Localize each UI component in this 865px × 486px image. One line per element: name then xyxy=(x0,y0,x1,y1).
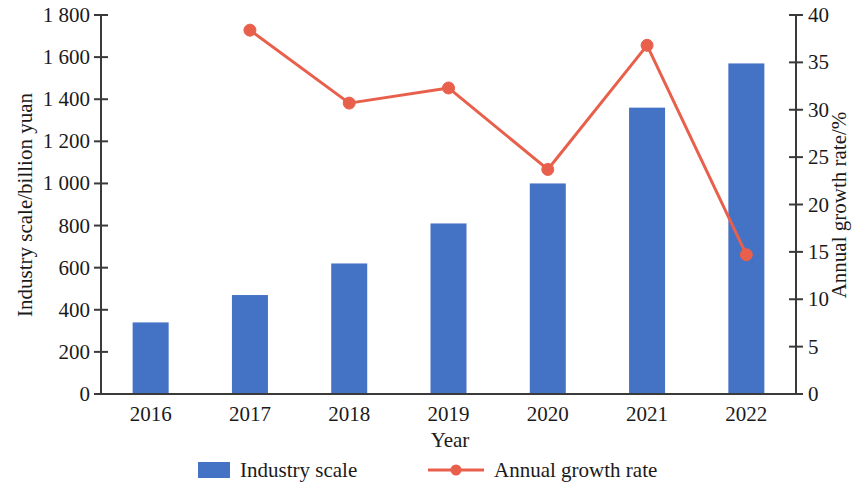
chart-figure: 02004006008001 0001 2001 4001 6001 800 0… xyxy=(0,0,865,486)
bar-2019 xyxy=(431,223,467,394)
bar-2020 xyxy=(530,183,566,394)
x-axis-tick-2020: 2020 xyxy=(527,402,569,426)
y-axis-left-tick-0: 0 xyxy=(80,382,91,406)
y-axis-left-tick-9: 1 800 xyxy=(43,3,90,27)
legend-label-annual-growth-rate: Annual growth rate xyxy=(494,458,657,482)
y-axis-right-tick-labels: 0510152025303540 xyxy=(808,3,829,406)
y-axis-right-tick-4: 20 xyxy=(808,193,829,217)
y-axis-right-tick-2: 10 xyxy=(808,287,829,311)
x-axis-tick-2021: 2021 xyxy=(626,402,668,426)
x-axis-tick-2022: 2022 xyxy=(725,402,767,426)
y-axis-right-title: Annual growth rate/% xyxy=(827,112,851,299)
y-axis-left-tick-8: 1 600 xyxy=(43,45,90,69)
y-axis-left-tick-2: 400 xyxy=(59,298,91,322)
bar-2016 xyxy=(133,322,169,394)
x-axis-title: Year xyxy=(431,428,470,452)
data-point-2017 xyxy=(244,24,256,36)
y-axis-left-tick-5: 1 000 xyxy=(43,171,90,195)
y-axis-left-tick-labels: 02004006008001 0001 2001 4001 6001 800 xyxy=(43,3,90,406)
y-axis-right-tick-7: 35 xyxy=(808,50,829,74)
legend-swatch-industry-scale xyxy=(198,462,230,478)
bar-series-group xyxy=(133,63,765,394)
y-axis-right-tick-3: 15 xyxy=(808,240,829,264)
combo-chart-canvas: 02004006008001 0001 2001 4001 6001 800 0… xyxy=(0,0,865,486)
y-axis-right-tick-5: 25 xyxy=(808,145,829,169)
bar-2021 xyxy=(629,108,665,394)
y-axis-left-tick-3: 600 xyxy=(59,256,91,280)
y-axis-left-title: Industry scale/billion yuan xyxy=(13,93,37,317)
y-axis-right-tick-0: 0 xyxy=(808,382,819,406)
y-axis-left-tick-4: 800 xyxy=(59,214,91,238)
data-point-2021 xyxy=(641,39,653,51)
annual-growth-rate-line xyxy=(250,30,746,255)
x-axis-tick-2016: 2016 xyxy=(130,402,172,426)
data-point-2020 xyxy=(542,163,554,175)
x-axis-tick-labels: 2016201720182019202020212022 xyxy=(130,402,768,426)
x-axis-tick-2017: 2017 xyxy=(229,402,271,426)
y-axis-left-tick-6: 1 200 xyxy=(43,129,90,153)
x-axis-tick-2019: 2019 xyxy=(428,402,470,426)
y-axis-right-tick-8: 40 xyxy=(808,3,829,27)
y-axis-left-tick-7: 1 400 xyxy=(43,87,90,111)
y-axis-right-tick-1: 5 xyxy=(808,335,819,359)
y-axis-left-tick-1: 200 xyxy=(59,340,91,364)
legend: Industry scale Annual growth rate xyxy=(198,458,657,482)
data-point-2019 xyxy=(443,82,455,94)
x-axis-tick-2018: 2018 xyxy=(328,402,370,426)
data-point-2022 xyxy=(740,249,752,261)
legend-marker-annual-growth-rate xyxy=(451,465,462,476)
bar-2017 xyxy=(232,295,268,394)
legend-label-industry-scale: Industry scale xyxy=(240,458,357,482)
y-axis-right-tick-6: 30 xyxy=(808,98,829,122)
data-point-2018 xyxy=(343,97,355,109)
bar-2018 xyxy=(331,263,367,394)
line-series-group xyxy=(244,24,752,261)
